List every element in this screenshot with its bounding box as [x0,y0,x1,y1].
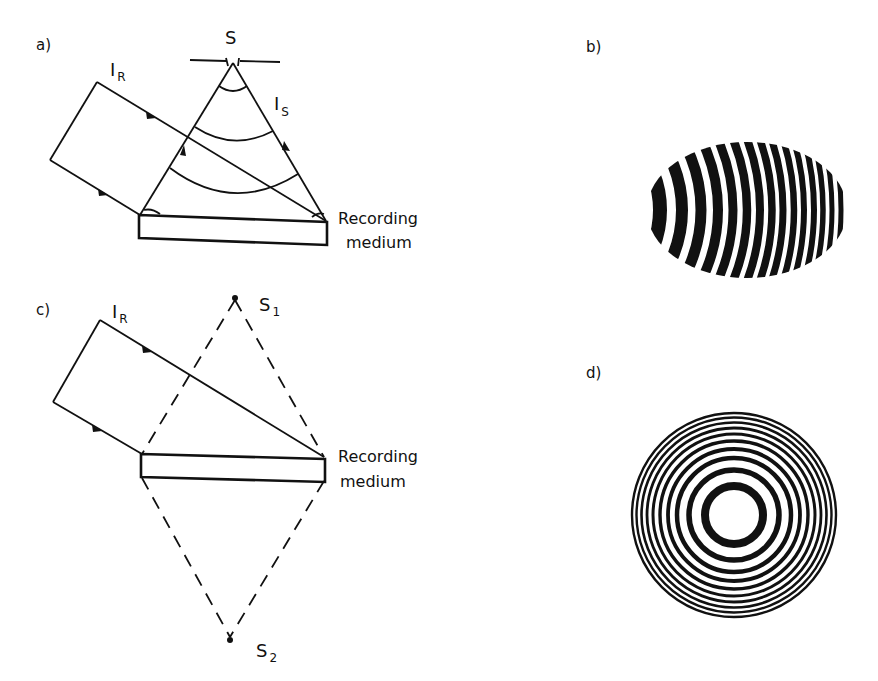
recording-medium-plate-c [141,454,325,482]
panel-c: c) S1 S2 IR Recording medium [36,294,418,665]
source-s2-point [227,637,233,643]
arrow-icon [282,141,290,151]
arrow-icon [146,112,156,119]
recording-medium-plate [139,215,327,245]
virtual-source-cones [142,300,324,637]
arrow-icon [142,346,152,353]
panel-a: a) S [36,27,418,252]
reference-beam-label: IR [110,59,126,84]
panel-d: d) [586,364,836,617]
hologram-recording-figure: a) S [0,0,878,681]
arrow-icon [98,189,108,196]
recording-medium-label-c-line2: medium [340,472,406,491]
recording-medium-label-c-line1: Recording [338,447,418,466]
concentric-ring-pattern [632,413,836,617]
object-beam-label: IS [274,93,289,119]
source-s1-label: S1 [259,294,280,319]
source-s2-label: S2 [256,640,277,665]
panel-a-label: a) [36,36,51,54]
reference-beam-c [53,320,324,457]
panel-c-label: c) [36,301,50,319]
panel-b-label: b) [586,38,601,56]
reference-beam-label-c: IR [112,301,128,326]
object-beam-cone [140,63,326,221]
arrow-icon [92,425,102,432]
recording-medium-label-line1: Recording [338,209,418,228]
recording-medium-label-line2: medium [346,233,412,252]
panel-d-label: d) [586,364,601,382]
source-s-label: S [225,27,236,48]
